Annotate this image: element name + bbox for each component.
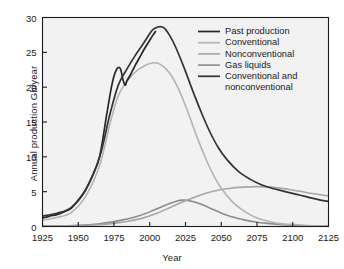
y-tick-label: 5 <box>0 186 37 197</box>
legend-label: Conventional <box>225 37 279 47</box>
y-tick-label: 25 <box>0 47 37 58</box>
y-tick-label: 20 <box>0 82 37 93</box>
y-tick-label: 15 <box>0 117 37 128</box>
legend-label: Gas liquids <box>225 60 271 70</box>
x-tick-label: 1925 <box>32 232 53 243</box>
x-tick-label: 2025 <box>175 232 196 243</box>
legend-label: Nonconventional <box>225 49 294 59</box>
legend-label: Past production <box>225 26 290 36</box>
x-tick-label: 1975 <box>103 232 124 243</box>
y-tick-label: 30 <box>0 12 37 23</box>
legend-label: Conventional and <box>225 71 297 81</box>
x-tick-label: 2000 <box>139 232 160 243</box>
x-tick-label: 2100 <box>282 232 303 243</box>
y-tick-label: 0 <box>0 221 37 232</box>
chart-svg <box>0 0 344 269</box>
x-tick-label: 2125 <box>318 232 339 243</box>
legend-label: nonconventional <box>225 82 293 92</box>
x-tick-label: 2050 <box>211 232 232 243</box>
x-axis-title: Year <box>0 252 344 263</box>
chart-figure: Annual production Gb/year Year 302520151… <box>0 0 344 269</box>
y-tick-label: 10 <box>0 151 37 162</box>
x-tick-label: 1950 <box>68 232 89 243</box>
x-tick-label: 2075 <box>246 232 267 243</box>
